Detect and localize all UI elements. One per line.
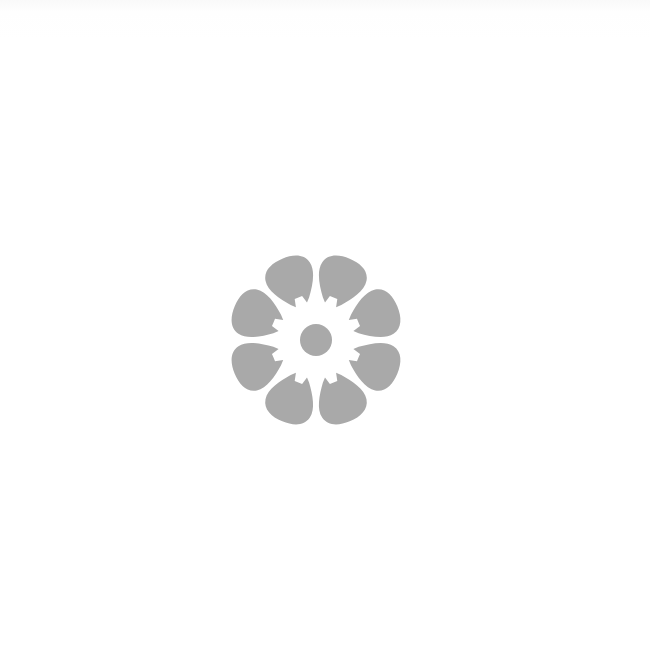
flower-icon — [0, 0, 650, 672]
flower-center — [300, 324, 332, 356]
